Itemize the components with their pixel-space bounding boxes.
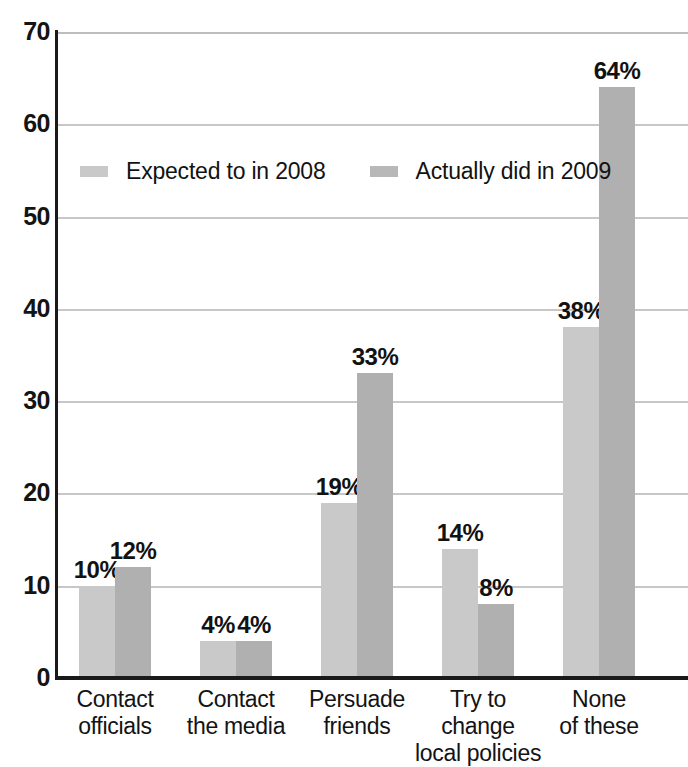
bar-value-label: 64% bbox=[589, 59, 645, 83]
bar-value-label: 14% bbox=[432, 521, 488, 545]
y-tick-label: 70 bbox=[4, 19, 50, 44]
y-tick-label: 0 bbox=[4, 665, 50, 690]
gridline bbox=[57, 217, 688, 219]
x-category-label: Noneof these bbox=[535, 686, 663, 740]
x-category-label-line: Contact bbox=[172, 686, 300, 713]
y-axis-tick-labels: 010203040506070 bbox=[0, 0, 50, 750]
legend-swatch-icon bbox=[370, 166, 398, 177]
y-tick-label: 50 bbox=[4, 204, 50, 229]
x-category-label-line: Contact bbox=[51, 686, 179, 713]
bar bbox=[200, 641, 236, 678]
bar bbox=[321, 503, 357, 678]
x-category-label: Contactthe media bbox=[172, 686, 300, 740]
x-category-label-line: friends bbox=[293, 713, 421, 740]
legend-label: Expected to in 2008 bbox=[126, 158, 326, 185]
y-tick-label: 40 bbox=[4, 296, 50, 321]
gridline bbox=[57, 124, 688, 126]
bar bbox=[79, 586, 115, 678]
x-category-label-line: None bbox=[535, 686, 663, 713]
x-category-label-line: local policies bbox=[414, 740, 542, 767]
legend-item: Expected to in 2008 bbox=[80, 158, 326, 185]
y-tick-label: 30 bbox=[4, 388, 50, 413]
legend-swatch-icon bbox=[80, 166, 108, 177]
x-category-label-line: Try to change bbox=[414, 686, 542, 740]
x-category-label: Contactofficials bbox=[51, 686, 179, 740]
x-category-label: Try to changelocal policies bbox=[414, 686, 542, 767]
legend-label: Actually did in 2009 bbox=[416, 158, 611, 185]
x-category-label-line: the media bbox=[172, 713, 300, 740]
chart-legend: Expected to in 2008Actually did in 2009 bbox=[80, 158, 611, 185]
bar-value-label: 8% bbox=[468, 576, 524, 600]
bar bbox=[442, 549, 478, 678]
bar-value-label: 33% bbox=[347, 345, 403, 369]
x-category-label-line: officials bbox=[51, 713, 179, 740]
x-axis-category-labels: ContactofficialsContactthe mediaPersuade… bbox=[57, 686, 688, 750]
bar-value-label: 12% bbox=[105, 539, 161, 563]
bar bbox=[115, 567, 151, 678]
bar bbox=[357, 373, 393, 678]
y-tick-label: 20 bbox=[4, 480, 50, 505]
y-tick-label: 10 bbox=[4, 573, 50, 598]
gridline bbox=[57, 32, 688, 34]
x-category-label-line: Persuade bbox=[293, 686, 421, 713]
y-axis-line bbox=[55, 30, 58, 680]
x-category-label-line: of these bbox=[535, 713, 663, 740]
plot-area: 10%12%4%4%19%33%14%8%38%64% bbox=[57, 32, 688, 678]
legend-item: Actually did in 2009 bbox=[370, 158, 611, 185]
y-tick-label: 60 bbox=[4, 111, 50, 136]
x-axis-line bbox=[55, 676, 688, 680]
bar bbox=[563, 327, 599, 678]
bar bbox=[478, 604, 514, 678]
x-category-label: Persuadefriends bbox=[293, 686, 421, 740]
bar bbox=[236, 641, 272, 678]
bar-value-label: 4% bbox=[226, 613, 282, 637]
